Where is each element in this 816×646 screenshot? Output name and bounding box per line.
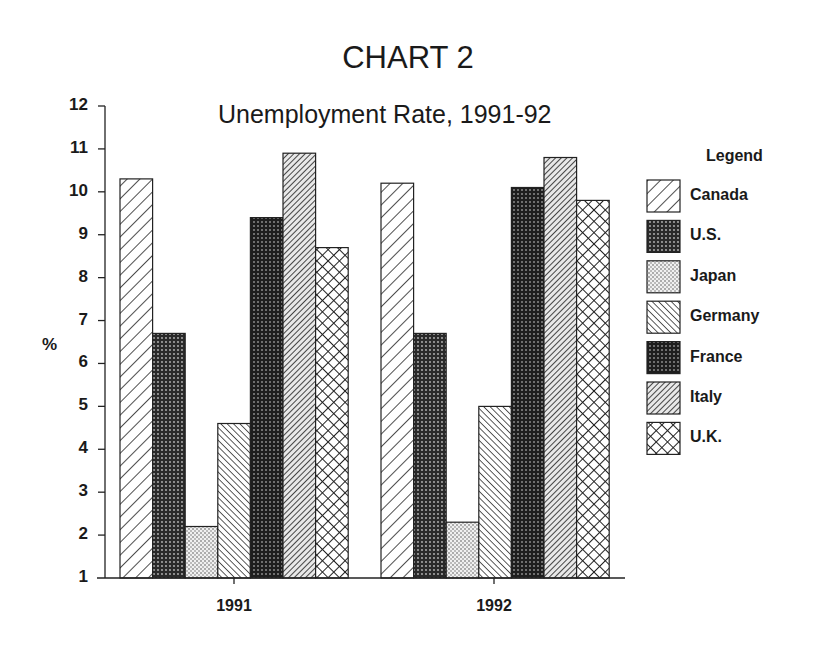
bar-canada-1991 [120,179,153,578]
legend-swatch [647,301,680,333]
legend-swatch [647,220,680,252]
bar-japan-1991 [185,527,218,579]
legend-swatch [647,261,680,293]
bar-uk-1991 [316,248,349,578]
bar-germany-1991 [218,424,251,579]
bar-italy-1992 [544,158,577,579]
legend-swatch [647,382,680,414]
bar-us-1991 [153,333,186,578]
bar-uk-1992 [577,200,610,578]
bar-italy-1991 [283,153,316,578]
plot-area [0,0,816,646]
bar-france-1991 [250,218,283,578]
bar-france-1992 [511,188,544,579]
legend-swatch [647,422,680,454]
legend-swatch [647,342,680,374]
bar-germany-1992 [479,406,512,578]
legend-swatch [647,180,680,212]
bar-canada-1992 [381,183,414,578]
bar-us-1992 [414,333,447,578]
bar-japan-1992 [446,522,479,578]
